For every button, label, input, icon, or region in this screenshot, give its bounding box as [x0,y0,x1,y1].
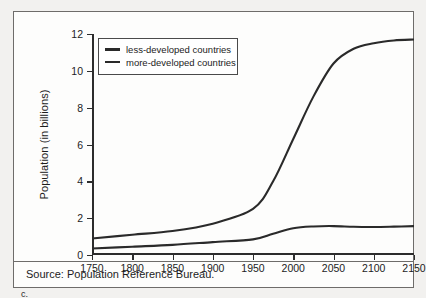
x-tick-mark [132,255,133,260]
x-tick-mark [293,255,294,260]
figure-frame: Population (in billions) 024681012 17501… [13,11,414,288]
x-tick-mark [334,255,335,260]
x-tick-mark [414,255,415,260]
x-tick-mark [92,255,93,260]
x-tick-mark [213,255,214,260]
x-tick-mark [173,255,174,260]
legend-swatch-icon [105,48,120,50]
y-tick-label: 6 [77,139,83,151]
source-note: Source: Population Reference Bureau. [26,268,214,280]
chart-legend: less-developed countries more-developed … [98,38,238,75]
y-tick-label: 2 [77,212,83,224]
y-tick-label: 8 [77,102,83,114]
y-tick-label: 10 [71,65,83,77]
figure-caption-label: c. [21,289,28,298]
x-tick-mark [253,255,254,260]
y-tick-label: 12 [71,28,83,40]
x-tick-label: 1950 [241,262,264,274]
source-divider [14,261,413,262]
x-tick-label: 2000 [282,262,305,274]
x-tick-label: 2150 [402,262,425,274]
y-tick-label: 0 [77,249,83,261]
x-tick-label: 2050 [322,262,345,274]
series-line-more-developed [92,226,414,248]
legend-item-label: less-developed countries [126,44,231,55]
legend-item-label: more-developed countries [126,57,236,68]
y-axis-title: Population (in billions) [36,34,52,255]
x-tick-label: 2100 [362,262,385,274]
legend-swatch-icon [105,61,120,63]
x-tick-mark [374,255,375,260]
legend-item: less-developed countries [105,44,231,56]
y-tick-label: 4 [77,175,83,187]
legend-item: more-developed countries [105,56,231,68]
